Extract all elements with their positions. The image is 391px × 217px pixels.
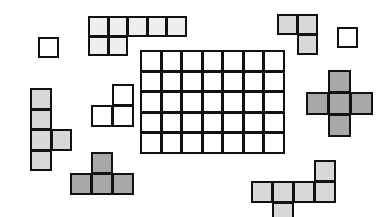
board-cell[interactable]	[222, 71, 244, 93]
board-cell[interactable]	[140, 71, 162, 93]
piece-cell	[30, 150, 52, 172]
piece-cell	[166, 16, 187, 37]
piece-cell	[314, 181, 336, 203]
board-cell[interactable]	[263, 132, 285, 154]
puzzle-piece-seven-cell-top-bar[interactable]	[88, 16, 186, 55]
board-cell[interactable]	[202, 91, 224, 113]
piece-cell	[112, 84, 134, 106]
puzzle-piece-vertical-pentomino-left[interactable]	[30, 88, 71, 170]
piece-cell	[328, 70, 351, 93]
board-cell[interactable]	[181, 91, 203, 113]
board-cell[interactable]	[202, 112, 224, 134]
piece-cell	[277, 14, 298, 35]
piece-cell	[147, 16, 168, 37]
board-cell[interactable]	[140, 112, 162, 134]
board-cell[interactable]	[202, 50, 224, 72]
piece-cell	[127, 16, 148, 37]
puzzle-piece-six-cell-bottom-right[interactable]	[251, 160, 335, 217]
board-cell[interactable]	[161, 112, 183, 134]
piece-cell	[112, 105, 134, 127]
board-cell[interactable]	[263, 91, 285, 113]
piece-cell	[108, 16, 129, 37]
piece-cell	[30, 129, 52, 151]
board-cell[interactable]	[222, 50, 244, 72]
piece-cell	[91, 152, 113, 174]
board-cell[interactable]	[181, 132, 203, 154]
piece-cell	[108, 36, 129, 57]
board-cell[interactable]	[140, 132, 162, 154]
piece-cell	[272, 202, 294, 217]
puzzle-piece-t-tetromino-bottom-left[interactable]	[70, 152, 133, 194]
piece-cell	[70, 173, 92, 195]
piece-cell	[51, 129, 73, 151]
board-cell[interactable]	[243, 71, 265, 93]
piece-cell	[328, 114, 351, 137]
board-cell[interactable]	[243, 91, 265, 113]
piece-cell	[297, 34, 318, 55]
board-cell[interactable]	[202, 71, 224, 93]
piece-cell	[337, 27, 358, 48]
central-grid-board[interactable]	[140, 50, 284, 153]
puzzle-canvas	[0, 0, 391, 217]
piece-cell	[91, 173, 113, 195]
board-cell[interactable]	[263, 71, 285, 93]
piece-cell	[88, 36, 109, 57]
board-cell[interactable]	[161, 132, 183, 154]
board-cell[interactable]	[263, 112, 285, 134]
puzzle-piece-single-square-far-right[interactable]	[337, 27, 357, 47]
piece-cell	[38, 37, 59, 58]
board-cell[interactable]	[243, 112, 265, 134]
piece-cell	[314, 160, 336, 182]
piece-cell	[350, 92, 373, 115]
board-cell[interactable]	[181, 71, 203, 93]
board-cell[interactable]	[222, 112, 244, 134]
board-cell[interactable]	[222, 91, 244, 113]
board-cell[interactable]	[181, 112, 203, 134]
piece-cell	[297, 14, 318, 35]
board-cell[interactable]	[161, 71, 183, 93]
puzzle-piece-l-tromino-top-right[interactable]	[277, 14, 317, 54]
piece-cell	[30, 109, 52, 131]
piece-cell	[306, 92, 329, 115]
piece-cell	[112, 173, 134, 195]
piece-cell	[272, 181, 294, 203]
board-cell[interactable]	[222, 132, 244, 154]
piece-cell	[30, 88, 52, 110]
piece-cell	[91, 105, 113, 127]
puzzle-piece-plus-pentomino-right[interactable]	[306, 70, 372, 136]
board-cell[interactable]	[140, 91, 162, 113]
puzzle-piece-single-square-top-left[interactable]	[38, 37, 58, 57]
board-cell[interactable]	[161, 91, 183, 113]
piece-cell	[328, 92, 351, 115]
piece-cell	[88, 16, 109, 37]
piece-cell	[251, 181, 273, 203]
board-cell[interactable]	[243, 50, 265, 72]
piece-cell	[293, 181, 315, 203]
board-cell[interactable]	[202, 132, 224, 154]
puzzle-piece-s-tromino-middle-left[interactable]	[91, 84, 133, 126]
board-cell[interactable]	[243, 132, 265, 154]
